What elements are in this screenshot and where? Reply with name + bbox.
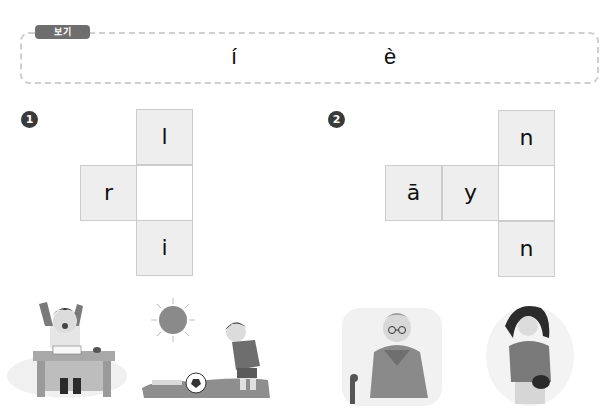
problem-2-cell-left1: ā [385,165,442,221]
example-label: 보기 [35,25,90,39]
example-box [20,32,599,84]
boy-at-desk-illustration [5,296,130,401]
problem-1-cell-bottom: i [136,220,193,276]
woman-with-bag-illustration [485,296,575,408]
problem-2-cell-answer[interactable] [498,165,555,221]
old-man-with-cane-illustration [340,298,445,406]
problem-2-cell-left2: y [442,165,499,221]
example-char-1: í [231,44,237,70]
problem-2-cell-top: n [498,110,555,166]
problem-1-cell-answer[interactable] [136,165,193,221]
problem-1-cell-left: r [80,165,137,221]
problem-2-number-badge: 2 [328,111,345,128]
problem-2-cell-bottom: n [498,221,555,277]
problem-1-number-badge: 1 [21,111,38,128]
example-char-2: è [384,44,396,70]
problem-1-cell-top: l [136,109,193,165]
boy-with-soccer-ball-illustration [140,296,275,401]
